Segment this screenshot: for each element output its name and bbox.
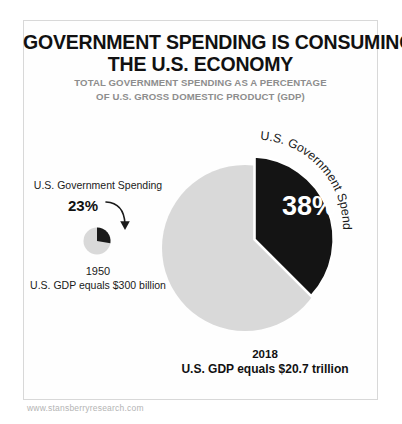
page-title-line-1: GOVERNMENT SPENDING IS CONSUMING [23,31,378,53]
pie-2018-gdp-label: U.S. GDP equals $20.7 trillion [130,362,400,376]
pie-2018-year-label: 2018 [140,348,390,360]
pie-2018-svg: 38% U.S. Government Spending [150,118,370,338]
footer-source-url: www.stansberryresearch.com [27,403,144,413]
page-title: GOVERNMENT SPENDING IS CONSUMING THE U.S… [23,31,378,75]
page-subtitle: TOTAL GOVERNMENT SPENDING AS A PERCENTAG… [23,76,378,104]
page-title-line-2: THE U.S. ECONOMY [23,53,378,75]
pie-2018-percent-label: 38% [282,191,336,221]
page-subtitle-line-1: TOTAL GOVERNMENT SPENDING AS A PERCENTAG… [23,76,378,90]
infographic-canvas: GOVERNMENT SPENDING IS CONSUMING THE U.S… [0,0,402,424]
pie-chart-2018: 38% U.S. Government Spending [150,118,370,338]
page-subtitle-line-2: OF U.S. GROSS DOMESTIC PRODUCT (GDP) [23,90,378,104]
